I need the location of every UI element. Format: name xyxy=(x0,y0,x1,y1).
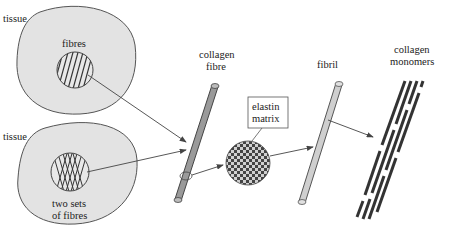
elastin-matrix-circle xyxy=(226,141,270,185)
two-sets-label-2: of fibres xyxy=(52,210,87,221)
elastin-label-2: matrix xyxy=(252,113,280,124)
fibril-rod xyxy=(298,82,343,205)
elastin-pointer-line xyxy=(252,128,262,141)
monomers-label-1: collagen xyxy=(394,44,430,55)
monomers-label-2: monomers xyxy=(390,56,434,67)
arrow-fibre-to-matrix xyxy=(192,165,223,175)
tissue-top xyxy=(17,6,136,114)
collagen-monomers xyxy=(357,81,423,219)
collagen-fibre-label-1: collagen xyxy=(199,49,235,60)
two-sets-label-1: two sets xyxy=(52,198,86,209)
tissue-bottom-label: tissue xyxy=(3,131,27,142)
arrow-fibril-to-monomers xyxy=(328,120,373,137)
collagen-fibre-label-2: fibre xyxy=(206,61,226,72)
collagen-fibre-rod xyxy=(174,84,219,203)
arrow-matrix-to-fibril xyxy=(270,147,313,156)
fibril-label: fibril xyxy=(317,59,338,70)
collagen-structure-diagram: tissue fibres tissue two sets of fibres xyxy=(0,0,454,233)
tissue-top-label: tissue xyxy=(3,13,27,24)
fibres-label: fibres xyxy=(62,38,86,49)
elastin-label-1: elastin xyxy=(252,101,280,112)
